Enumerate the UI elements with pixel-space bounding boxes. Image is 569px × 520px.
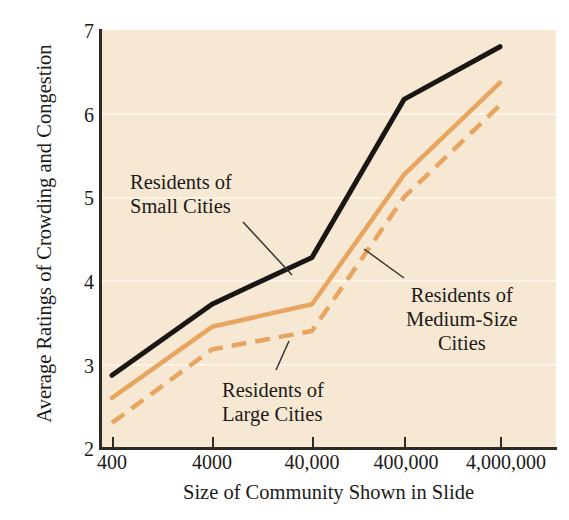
x-tick-label-40000: 40,000 <box>285 452 340 472</box>
y-tick-label-7: 7 <box>66 21 94 41</box>
y-axis-line <box>99 29 102 450</box>
annotation-large-cities: Residents of Large Cities <box>222 379 324 427</box>
annotation-small-cities: Residents of Small Cities <box>130 171 232 219</box>
annotation-medium-size-cities-line-2: Medium-Size <box>406 308 518 332</box>
x-tick-mark-3 <box>312 437 314 448</box>
annotation-small-cities-line-1: Residents of <box>130 171 232 195</box>
y-tick-label-5: 5 <box>66 188 94 208</box>
plot-area <box>101 30 556 448</box>
annotation-medium-size-cities-line-1: Residents of <box>406 284 518 308</box>
x-tick-label-4000: 4000 <box>192 452 232 472</box>
annotation-medium-size-cities: Residents of Medium-Size Cities <box>406 284 518 355</box>
gridline-3 <box>101 364 556 366</box>
x-tick-label-400000: 400,000 <box>374 452 439 472</box>
y-tick-label-3: 3 <box>66 356 94 376</box>
y-axis-tick-labels: 7 6 5 4 3 2 <box>60 0 94 520</box>
x-axis-title: Size of Community Shown in Slide <box>101 481 556 504</box>
x-axis-line <box>99 447 557 450</box>
annotation-large-cities-line-2: Large Cities <box>222 403 324 427</box>
y-tick-label-2: 2 <box>66 439 94 459</box>
gridline-4 <box>101 280 556 282</box>
annotation-large-cities-line-1: Residents of <box>222 379 324 403</box>
annotation-small-cities-line-2: Small Cities <box>130 195 232 219</box>
y-tick-label-6: 6 <box>66 105 94 125</box>
x-tick-mark-4 <box>404 437 406 448</box>
x-tick-label-4000000: 4,000,000 <box>466 452 546 472</box>
x-tick-mark-2 <box>212 437 214 448</box>
y-axis-title: Average Ratings of Crowding and Congesti… <box>33 24 56 444</box>
gridline-6 <box>101 113 556 115</box>
chart-figure: 7 6 5 4 3 2 400 4000 40,000 400,000 4,00… <box>0 0 569 520</box>
y-tick-label-4: 4 <box>66 272 94 292</box>
x-tick-mark-1 <box>112 437 114 448</box>
annotation-medium-size-cities-line-3: Cities <box>406 332 518 356</box>
x-tick-label-400: 400 <box>97 452 127 472</box>
x-tick-mark-5 <box>500 437 502 448</box>
